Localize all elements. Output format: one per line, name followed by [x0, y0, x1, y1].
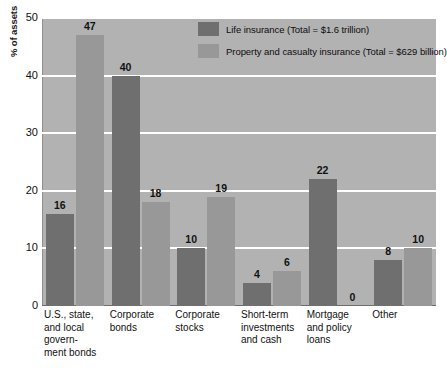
- x-axis-label-line: stocks: [175, 322, 249, 335]
- y-tick-label-0: 0: [12, 300, 38, 311]
- x-axis-label: U.S., state,and localgovern-ment bonds: [44, 309, 118, 359]
- x-axis-label-line: Corporate: [110, 309, 184, 322]
- bar-value-label: 10: [173, 234, 209, 245]
- x-axis-label: Mortgageand policyloans: [307, 309, 381, 347]
- bar: [207, 197, 235, 306]
- bar: [374, 260, 402, 306]
- bar: [404, 248, 432, 306]
- bar: [142, 202, 170, 306]
- x-axis-label-line: Mortgage: [307, 309, 381, 322]
- y-tick-label-50: 50: [12, 12, 38, 23]
- bar-value-label: 47: [72, 21, 108, 32]
- x-axis-label: Other: [372, 309, 446, 322]
- bar-value-label: 0: [335, 292, 371, 303]
- bar: [112, 76, 140, 306]
- x-axis-label-line: loans: [307, 334, 381, 347]
- bar-value-label: 19: [203, 183, 239, 194]
- bar-value-label: 16: [42, 200, 78, 211]
- x-axis-label-line: and policy: [307, 322, 381, 335]
- bar-value-label: 6: [269, 257, 305, 268]
- y-tick-label-40: 40: [12, 70, 38, 81]
- x-axis-label-line: Other: [372, 309, 446, 322]
- y-axis-line: [42, 18, 43, 306]
- gridline-50: [42, 17, 436, 19]
- legend-item-property: Property and casualty insurance (Total =…: [198, 44, 434, 58]
- y-tick-label-30: 30: [12, 127, 38, 138]
- bar-value-label: 40: [108, 62, 144, 73]
- y-tick-label-20: 20: [12, 185, 38, 196]
- legend: Life insurance (Total = $1.6 trillion) P…: [198, 22, 434, 66]
- bar-value-label: 8: [370, 246, 406, 257]
- legend-item-life: Life insurance (Total = $1.6 trillion): [198, 22, 434, 36]
- x-axis-label-line: govern-: [44, 334, 118, 347]
- plot-area: 16401042284718196010 Life insurance (Tot…: [42, 18, 436, 306]
- x-axis-label: Corporatestocks: [175, 309, 249, 334]
- bar: [273, 271, 301, 306]
- x-axis-category-labels: U.S., state,and localgovern-ment bondsCo…: [42, 309, 436, 379]
- y-axis-ticks: 01020304050: [8, 0, 38, 380]
- bar: [243, 283, 271, 306]
- x-axis-label-line: Short-term: [241, 309, 315, 322]
- bar-value-label: 4: [239, 269, 275, 280]
- bar-value-label: 18: [138, 188, 174, 199]
- legend-swatch-icon-property: [198, 44, 219, 58]
- y-tick-label-10: 10: [12, 242, 38, 253]
- x-axis-label-line: and cash: [241, 334, 315, 347]
- x-axis-label-line: Corporate: [175, 309, 249, 322]
- legend-swatch-icon-life: [198, 22, 219, 36]
- bar-value-label: 10: [400, 234, 436, 245]
- bar: [177, 248, 205, 306]
- legend-label-property: Property and casualty insurance (Total =…: [226, 46, 447, 57]
- x-axis-label-line: U.S., state,: [44, 309, 118, 322]
- legend-label-life: Life insurance (Total = $1.6 trillion): [226, 24, 369, 35]
- x-axis-label-line: investments: [241, 322, 315, 335]
- x-axis-label-line: and local: [44, 322, 118, 335]
- x-axis-label: Short-terminvestmentsand cash: [241, 309, 315, 347]
- x-axis-label: Corporatebonds: [110, 309, 184, 334]
- bar-value-label: 22: [305, 165, 341, 176]
- x-axis-label-line: bonds: [110, 322, 184, 335]
- bar: [46, 214, 74, 306]
- bar: [76, 35, 104, 306]
- x-axis-label-line: ment bonds: [44, 347, 118, 360]
- bar: [309, 179, 337, 306]
